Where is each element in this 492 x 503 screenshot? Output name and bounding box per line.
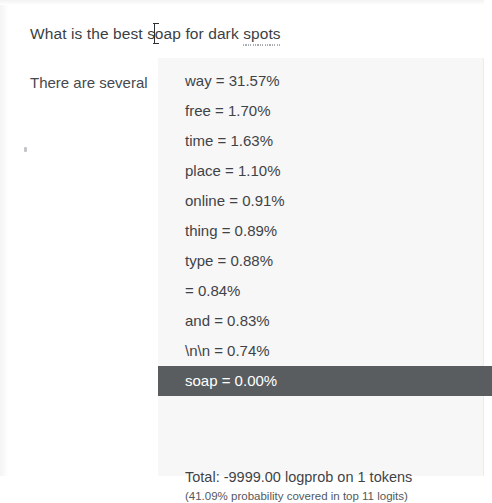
logits-summary-total: Total: -9999.00 logprob on 1 tokens [185, 468, 484, 486]
logits-summary: Total: -9999.00 logprob on 1 tokens (41.… [185, 468, 484, 503]
page-left-edge [0, 5, 8, 476]
misspelled-word[interactable]: spots [243, 25, 281, 43]
token-row[interactable]: time = 1.63% [158, 126, 484, 156]
token-row[interactable]: free = 1.70% [158, 96, 484, 126]
token-row[interactable]: place = 1.10% [158, 156, 484, 186]
completion-text: There are several [30, 74, 148, 91]
logits-summary-coverage: (41.09% probability covered in top 11 lo… [185, 489, 484, 503]
token-row[interactable]: thing = 0.89% [158, 216, 484, 246]
token-row[interactable]: way = 31.57% [158, 66, 484, 96]
token-row[interactable]: type = 0.88% [158, 246, 484, 276]
token-row[interactable]: = 0.84% [158, 276, 484, 306]
logits-popup-panel: way = 31.57%free = 1.70%time = 1.63%plac… [158, 58, 484, 476]
token-row-selected[interactable]: soap = 0.00% [158, 366, 492, 396]
text-cursor-icon [154, 24, 155, 43]
page-speck-artifact [24, 147, 27, 152]
prompt-text-after-caret: oap for dark [155, 25, 243, 42]
token-row[interactable]: \n\n = 0.74% [158, 336, 484, 366]
page-top-edge [0, 0, 484, 5]
token-row[interactable]: and = 0.83% [158, 306, 484, 336]
prompt-text-before-caret: What is the best s [30, 25, 155, 42]
prompt-text-line[interactable]: What is the best soap for dark spots [30, 24, 281, 43]
token-logit-list: way = 31.57%free = 1.70%time = 1.63%plac… [158, 66, 484, 396]
token-row[interactable]: online = 0.91% [158, 186, 484, 216]
